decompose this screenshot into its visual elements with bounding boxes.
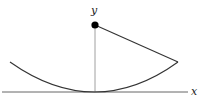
parabola-curve bbox=[10, 62, 178, 92]
x-axis-label: x bbox=[191, 85, 198, 98]
focus-to-point-segment bbox=[95, 25, 178, 62]
focus-point bbox=[91, 21, 98, 28]
y-axis-label: y bbox=[90, 4, 98, 17]
parabola-diagram: x y bbox=[0, 0, 201, 106]
